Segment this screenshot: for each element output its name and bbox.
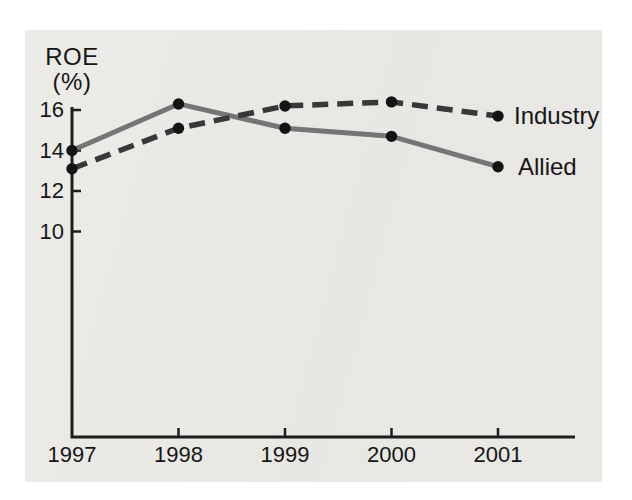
y-axis-title-unit: (%) [42, 69, 102, 94]
point-allied-2000 [386, 131, 397, 142]
point-industry-2000 [386, 96, 397, 107]
x-tick-label-1999: 1999 [250, 444, 320, 466]
x-tick-label-1998: 1998 [144, 444, 214, 466]
point-industry-1998 [173, 123, 184, 134]
x-tick-label-2001: 2001 [463, 444, 533, 466]
point-allied-2001 [492, 161, 503, 172]
series-allied-line [72, 104, 498, 167]
x-tick-label-2000: 2000 [357, 444, 427, 466]
y-tick-label-14: 14 [24, 140, 64, 162]
series-label-allied: Allied [518, 153, 577, 181]
point-allied-1997 [66, 145, 77, 156]
y-tick-label-10: 10 [24, 221, 64, 243]
figure: ROE (%) Industry Allied 1614121019971998… [0, 0, 632, 500]
series-industry-line [72, 102, 498, 169]
x-tick-label-1997: 1997 [37, 444, 107, 466]
axes [72, 107, 575, 437]
y-tick-label-16: 16 [24, 99, 64, 121]
point-industry-1999 [279, 100, 290, 111]
point-allied-1998 [173, 98, 184, 109]
point-industry-1997 [66, 163, 77, 174]
point-allied-1999 [279, 123, 290, 134]
y-axis-title: ROE (%) [42, 44, 102, 94]
point-industry-2001 [492, 110, 503, 121]
series-label-industry: Industry [514, 102, 599, 130]
y-tick-label-12: 12 [24, 180, 64, 202]
y-axis-title-roe: ROE [42, 44, 102, 69]
